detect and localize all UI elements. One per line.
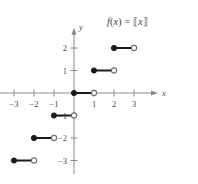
- open-endpoint-dot: [131, 45, 136, 50]
- x-tick-label: −2: [29, 99, 38, 109]
- closed-endpoint-dot: [11, 158, 16, 163]
- x-tick-label: −1: [49, 99, 58, 109]
- tick-labels-group: −3−2−112321−1−2−3: [9, 43, 136, 166]
- y-tick-label: 2: [63, 43, 67, 53]
- y-axis-name: y: [78, 22, 83, 32]
- open-endpoint-dot: [71, 113, 76, 118]
- closed-endpoint-dot: [51, 113, 56, 118]
- x-tick-label: 3: [132, 99, 136, 109]
- x-tick-label: −3: [9, 99, 18, 109]
- y-tick-label: −3: [58, 156, 67, 166]
- closed-endpoint-dot: [71, 90, 76, 95]
- closed-endpoint-dot: [31, 135, 36, 140]
- x-axis-name: x: [161, 88, 166, 98]
- y-axis-arrowhead: [71, 28, 76, 35]
- closed-endpoint-dot: [91, 68, 96, 73]
- y-tick-label: −2: [58, 133, 67, 143]
- x-tick-label: 1: [92, 99, 96, 109]
- axis-names-group: xy: [78, 22, 166, 98]
- x-tick-label: 2: [112, 99, 116, 109]
- closed-endpoint-dot: [111, 45, 116, 50]
- plot-canvas: −3−2−112321−1−2−3 xy: [0, 0, 198, 184]
- open-endpoint-dot: [51, 135, 56, 140]
- function-formula-label: f(x) = ⟦x⟧: [107, 16, 148, 27]
- open-endpoint-dot: [111, 68, 116, 73]
- step-function-figure: −3−2−112321−1−2−3 xy f(x) = ⟦x⟧: [0, 0, 198, 184]
- x-axis-arrowhead: [151, 90, 158, 95]
- open-endpoint-dot: [31, 158, 36, 163]
- formula-equals: =: [122, 16, 133, 27]
- open-endpoint-dot: [91, 90, 96, 95]
- formula-bracket-close: ⟧: [143, 16, 148, 27]
- y-tick-label: 1: [63, 66, 67, 76]
